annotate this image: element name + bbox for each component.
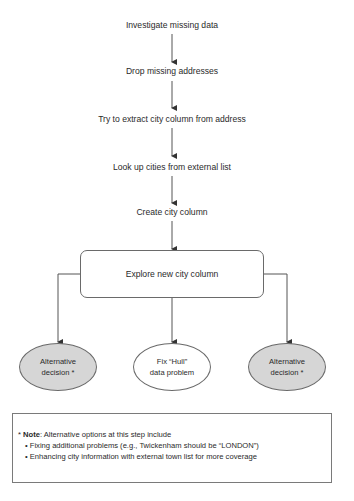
outcome-center-line1: Fix “Hull” [157, 356, 187, 367]
outcome-left-line1: Alternative [40, 356, 76, 367]
note-bullet-text: Enhancing city information with external… [30, 452, 257, 461]
arrow-left-branch [58, 274, 80, 342]
outcome-center-line2: data problem [150, 367, 194, 378]
outcome-right-line1: Alternative [269, 356, 305, 367]
outcome-alternative-right: Alternative decision * [248, 343, 326, 391]
explore-city-column-box: Explore new city column [80, 250, 264, 298]
note-label: Note [23, 430, 40, 439]
outcome-left-line2: decision * [42, 367, 75, 378]
note-intro-text: : Alternative options at this step inclu… [40, 430, 171, 439]
note-box: * Note: Alternative options at this step… [12, 413, 332, 483]
step-drop-missing-addresses: Drop missing addresses [0, 66, 344, 76]
step-extract-city-column: Try to extract city column from address [0, 114, 344, 124]
step-investigate-missing-data: Investigate missing data [0, 20, 344, 30]
step-look-up-cities: Look up cities from external list [0, 162, 344, 172]
note-intro: * Note: Alternative options at this step… [18, 429, 331, 440]
note-bullet: • Enhancing city information with extern… [18, 451, 331, 462]
outcome-right-line2: decision * [271, 367, 304, 378]
explore-city-column-label: Explore new city column [126, 269, 219, 279]
step-create-city-column: Create city column [0, 207, 344, 217]
note-bullet: • Fixing additional problems (e.g., Twic… [18, 440, 331, 451]
arrow-right-branch [263, 274, 287, 342]
note-bullet-text: Fixing additional problems (e.g., Twicke… [30, 441, 259, 450]
outcome-fix-hull: Fix “Hull” data problem [133, 343, 211, 391]
outcome-alternative-left: Alternative decision * [19, 343, 97, 391]
